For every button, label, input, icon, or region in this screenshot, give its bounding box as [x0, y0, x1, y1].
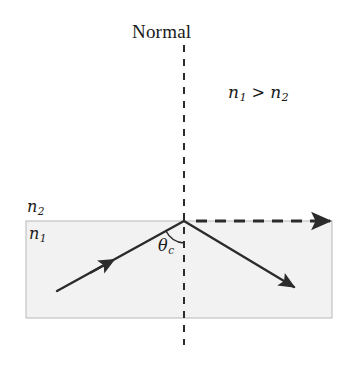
lower-medium-symbol: n — [29, 224, 39, 243]
normal-label: Normal — [132, 22, 191, 41]
upper-medium-subscript: 2 — [38, 205, 45, 217]
index-high-symbol: n — [228, 82, 239, 102]
total-internal-reflection-diagram: Normal n1>n2 n2 n1 θc — [0, 0, 356, 367]
lower-medium-subscript: 1 — [40, 232, 47, 244]
dense-medium-slab — [26, 221, 332, 318]
theta-symbol: θ — [158, 236, 168, 255]
index-relation-label: n1>n2 — [228, 84, 289, 103]
critical-angle-label: θc — [158, 238, 174, 256]
diagram-canvas — [0, 0, 356, 367]
upper-medium-label: n2 — [27, 199, 45, 217]
index-low-subscript: 2 — [282, 91, 289, 104]
theta-subscript: c — [168, 244, 174, 256]
lower-medium-label: n1 — [29, 226, 47, 244]
index-high-subscript: 1 — [239, 91, 246, 104]
index-low-symbol: n — [270, 82, 281, 102]
greater-than-symbol: > — [252, 83, 266, 102]
upper-medium-symbol: n — [27, 197, 37, 216]
